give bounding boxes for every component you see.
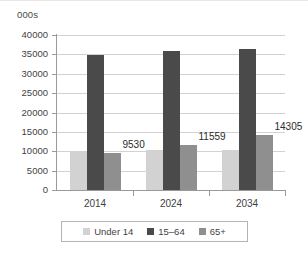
y-axis-tick-label: 0 [43, 184, 48, 195]
plot-area: 95301155914305 [57, 35, 285, 190]
bar[interactable] [70, 152, 87, 190]
legend-swatch-under-14 [83, 228, 90, 235]
chart-top-rule [0, 0, 308, 1]
bar-chart: 000s 95301155914305 05000100001500020000… [0, 0, 308, 257]
y-axis-tick [52, 171, 56, 172]
bar[interactable] [146, 150, 163, 190]
y-axis-unit-label: 000s [17, 9, 38, 20]
bar-group [146, 35, 197, 190]
legend-item-65-plus[interactable]: 65+ [199, 226, 226, 237]
y-axis-tick [52, 54, 56, 55]
y-axis-tick [52, 74, 56, 75]
legend-label-15-64: 15–64 [158, 226, 184, 237]
legend-item-under-14[interactable]: Under 14 [83, 226, 133, 237]
x-axis-separator-tick [209, 190, 210, 196]
bar[interactable] [222, 150, 239, 190]
legend-swatch-15-64 [147, 228, 154, 235]
x-axis-separator-tick [285, 190, 286, 196]
bar[interactable] [87, 55, 104, 190]
y-axis-tick [52, 93, 56, 94]
bar-data-label: 9530 [123, 139, 145, 150]
y-axis-tick-label: 25000 [22, 87, 48, 98]
bar[interactable] [256, 135, 273, 190]
legend-label-65-plus: 65+ [210, 226, 226, 237]
bar-group [222, 35, 273, 190]
y-axis-tick [52, 151, 56, 152]
bar[interactable] [104, 153, 121, 190]
y-axis-tick-label: 15000 [22, 126, 48, 137]
legend-label-under-14: Under 14 [94, 226, 133, 237]
bar[interactable] [180, 145, 197, 190]
chart-legend: Under 14 15–64 65+ [61, 221, 248, 242]
y-axis-tick-label: 5000 [27, 165, 48, 176]
x-axis-separator-tick [133, 190, 134, 196]
legend-swatch-65-plus [199, 228, 206, 235]
bar-group [70, 35, 121, 190]
bar-data-label: 14305 [275, 121, 303, 132]
y-axis-tick-label: 20000 [22, 107, 48, 118]
x-axis-category-label: 2034 [209, 198, 285, 209]
y-axis-tick-label: 10000 [22, 145, 48, 156]
x-axis-category-label: 2014 [57, 198, 133, 209]
y-axis-tick-label: 35000 [22, 48, 48, 59]
y-axis-tick-label: 40000 [22, 29, 48, 40]
legend-item-15-64[interactable]: 15–64 [147, 226, 184, 237]
x-axis-category-label: 2024 [133, 198, 209, 209]
x-axis-line [56, 190, 285, 191]
y-axis-tick [52, 132, 56, 133]
y-axis-tick-label: 30000 [22, 68, 48, 79]
y-axis-line [56, 34, 57, 191]
y-axis-tick [52, 113, 56, 114]
bar[interactable] [163, 51, 180, 190]
bar[interactable] [239, 49, 256, 190]
y-axis-tick [52, 35, 56, 36]
